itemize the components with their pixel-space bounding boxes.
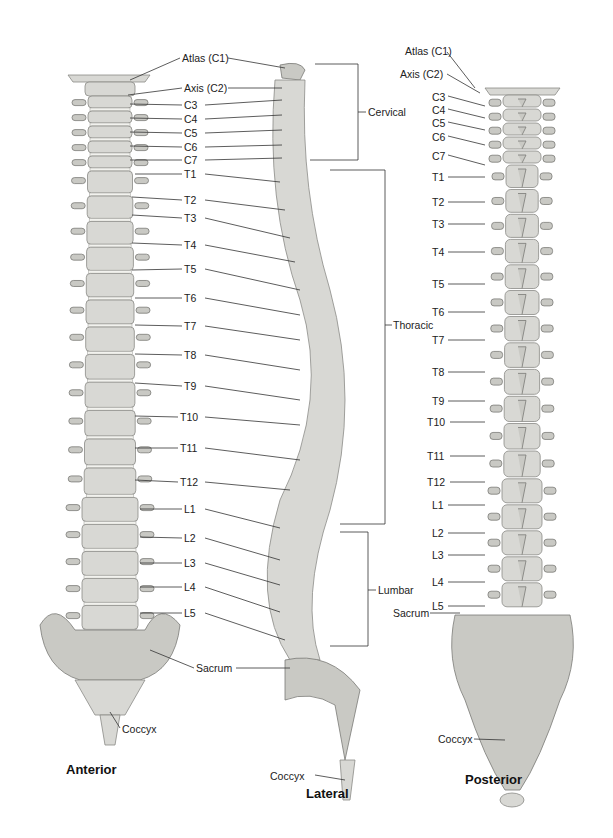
anterior-label-t3: T3	[184, 212, 196, 224]
posterior-label-c7: C7	[432, 150, 445, 162]
anterior-label-t9: T9	[184, 380, 196, 392]
posterior-label-t10: T10	[427, 416, 445, 428]
anterior-label-t2: T2	[184, 194, 196, 206]
posterior-label-l2: L2	[432, 527, 444, 539]
posterior-label-t9: T9	[432, 395, 444, 407]
anterior-label-l3: L3	[184, 557, 196, 569]
anterior-label-l5: L5	[184, 607, 196, 619]
posterior-label-l4: L4	[432, 576, 444, 588]
anterior-label-t11: T11	[180, 442, 197, 454]
anterior-label-l2: L2	[184, 532, 196, 544]
posterior-label-t1: T1	[432, 171, 444, 183]
posterior-title: Posterior	[465, 772, 522, 787]
anterior-label-l1: L1	[184, 503, 196, 515]
anterior-label-c7: C7	[184, 154, 197, 166]
lateral-spine	[267, 63, 360, 800]
posterior-label-axis: Axis (C2)	[400, 68, 443, 80]
anterior-label-c3: C3	[184, 99, 197, 111]
lateral-region-cervical: Cervical	[368, 106, 406, 118]
posterior-label-t4: T4	[432, 246, 444, 258]
posterior-label-t7: T7	[432, 334, 444, 346]
posterior-label-l3: L3	[432, 549, 444, 561]
anterior-label-sacrum: Sacrum	[196, 662, 232, 674]
anterior-label-t5: T5	[184, 263, 196, 275]
posterior-label-t11: T11	[427, 450, 444, 462]
anterior-label-t10: T10	[180, 411, 198, 423]
anterior-label-t7: T7	[184, 320, 196, 332]
lateral-title: Lateral	[306, 786, 349, 801]
lateral-label-coccyx: Coccyx	[270, 770, 304, 782]
anterior-label-c5: C5	[184, 127, 197, 139]
posterior-label-sacrum: Sacrum	[393, 607, 429, 619]
anterior-label-t4: T4	[184, 239, 196, 251]
posterior-spine	[452, 88, 574, 807]
posterior-label-l1: L1	[432, 499, 444, 511]
posterior-label-t8: T8	[432, 366, 444, 378]
anterior-label-t6: T6	[184, 292, 196, 304]
posterior-label-c6: C6	[432, 131, 445, 143]
anterior-label-coccyx: Coccyx	[122, 723, 156, 735]
anterior-label-l4: L4	[184, 581, 196, 593]
lateral-region-thoracic: Thoracic	[393, 319, 433, 331]
posterior-label-t3: T3	[432, 218, 444, 230]
spine-illustrations	[0, 0, 613, 838]
posterior-label-t6: T6	[432, 306, 444, 318]
posterior-label-t2: T2	[432, 196, 444, 208]
posterior-label-atlas: Atlas (C1)	[405, 45, 452, 57]
anterior-spine	[40, 75, 180, 745]
posterior-label-coccyx: Coccyx	[438, 733, 472, 745]
anterior-label-t1: T1	[184, 168, 196, 180]
posterior-label-c4: C4	[432, 104, 445, 116]
anterior-title: Anterior	[66, 762, 117, 777]
posterior-label-t12: T12	[427, 476, 445, 488]
anterior-label-c6: C6	[184, 141, 197, 153]
posterior-label-t5: T5	[432, 278, 444, 290]
anterior-label-t12: T12	[180, 476, 198, 488]
anterior-label-c4: C4	[184, 113, 197, 125]
anterior-label-axis: Axis (C2)	[184, 82, 227, 94]
lateral-region-lumbar: Lumbar	[378, 584, 414, 596]
posterior-label-l5: L5	[432, 600, 444, 612]
anterior-label-atlas: Atlas (C1)	[182, 52, 229, 64]
anterior-label-t8: T8	[184, 349, 196, 361]
posterior-label-c3: C3	[432, 91, 445, 103]
posterior-label-c5: C5	[432, 117, 445, 129]
